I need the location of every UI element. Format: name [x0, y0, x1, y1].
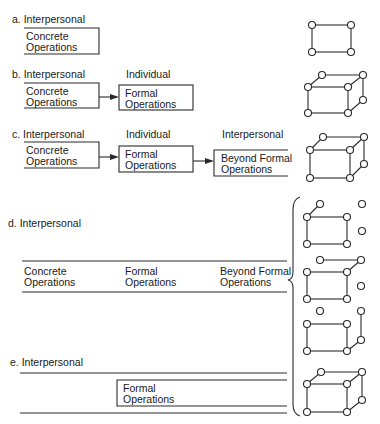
arrow-head	[110, 154, 119, 160]
developmental-stages-diagram: a. Interpersonal Concrete Operations b. …	[0, 0, 380, 424]
panel-a-label: a. Interpersonal	[12, 13, 85, 25]
panel-e-box-line2: Operations	[123, 393, 174, 405]
panel-c-column-individual: Individual	[126, 128, 170, 140]
panel-c-box2-line2: Operations	[125, 159, 176, 171]
panel-d-col2-line2: Operations	[125, 276, 176, 288]
panel-c-box3-line2: Operations	[221, 163, 272, 175]
arrow-head	[205, 158, 214, 164]
panel-b-box1-line2: Operations	[26, 96, 77, 108]
panel-d-col1-line2: Operations	[24, 276, 75, 288]
vertex-circles	[304, 22, 368, 416]
panel-c-label: c. Interpersonal	[12, 128, 84, 140]
brace	[288, 197, 300, 416]
panel-d-label: d. Interpersonal	[8, 217, 81, 229]
panel-c-column-interpersonal: Interpersonal	[222, 128, 283, 140]
panel-b-box2-line2: Operations	[125, 98, 176, 110]
panel-e-label: e. Interpersonal	[10, 356, 83, 368]
panel-d-col3-line2: Operations	[220, 276, 271, 288]
panel-a-box-line2: Operations	[26, 41, 77, 53]
panel-b-label: b. Interpersonal	[12, 68, 85, 80]
arrow-head	[110, 94, 119, 100]
panel-b-column-individual: Individual	[126, 68, 170, 80]
panel-c-box1-line2: Operations	[26, 155, 77, 167]
